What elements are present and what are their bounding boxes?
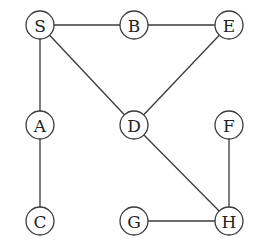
node-b: B	[120, 11, 148, 39]
edge-s-d	[40, 25, 134, 125]
node-label: A	[33, 116, 47, 136]
node-label: D	[127, 116, 141, 136]
node-g: G	[120, 207, 148, 235]
node-label: E	[223, 16, 235, 36]
node-label: H	[222, 212, 237, 232]
edge-e-d	[134, 25, 229, 125]
node-label: F	[223, 116, 235, 136]
node-label: B	[128, 16, 141, 36]
node-a: A	[26, 111, 54, 139]
node-label: S	[34, 16, 46, 36]
graph-diagram: SBEADFCGH	[0, 0, 262, 250]
node-e: E	[215, 11, 243, 39]
node-s: S	[26, 11, 54, 39]
edge-d-h	[134, 125, 229, 221]
node-c: C	[26, 207, 54, 235]
node-d: D	[120, 111, 148, 139]
node-f: F	[215, 111, 243, 139]
node-h: H	[215, 207, 243, 235]
node-label: C	[33, 212, 46, 232]
node-label: G	[127, 212, 141, 232]
